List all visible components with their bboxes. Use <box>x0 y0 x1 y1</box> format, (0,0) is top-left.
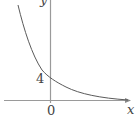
x-axis-label: x <box>127 102 135 117</box>
exponential-curve <box>18 5 128 100</box>
graph: y 4 0 x <box>0 0 140 119</box>
origin-label: 0 <box>47 103 55 118</box>
y-intercept-label: 4 <box>36 71 44 86</box>
y-axis-label: y <box>39 0 48 7</box>
